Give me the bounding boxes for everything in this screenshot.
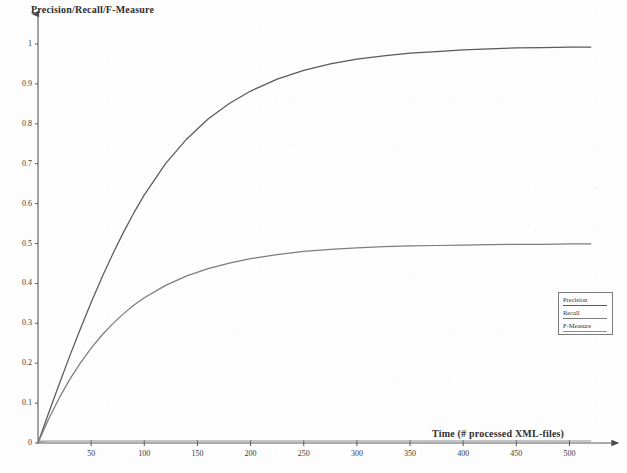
- y-tick-label: 0.4: [6, 278, 32, 287]
- y-tick-label: 0.6: [6, 199, 32, 208]
- legend-swatch-fmeasure: [563, 331, 607, 332]
- chart-series-group: [38, 47, 591, 443]
- x-tick-label: 350: [397, 449, 423, 458]
- x-tick-label: 150: [184, 449, 210, 458]
- legend-item-recall: Recall: [563, 309, 609, 319]
- chart-page: Precision/Recall/F-Measure Time (# proce…: [0, 0, 627, 473]
- y-axis-title: Precision/Recall/F-Measure: [31, 4, 154, 15]
- y-tick-label: 0.2: [6, 358, 32, 367]
- y-tick-label: 0.7: [6, 159, 32, 168]
- y-tick-label: 0.9: [6, 79, 32, 88]
- x-tick-label: 300: [344, 449, 370, 458]
- x-tick-label: 250: [291, 449, 317, 458]
- series-line-recall: [38, 244, 591, 443]
- y-tick-label: 0.8: [6, 119, 32, 128]
- y-tick-label: 0.3: [6, 318, 32, 327]
- chart-legend: Precision Recall F-Measure: [558, 292, 613, 335]
- series-line-precision: [38, 47, 591, 443]
- legend-label-recall: Recall: [563, 309, 609, 317]
- legend-item-fmeasure: F-Measure: [563, 322, 609, 332]
- y-tick-label: 1: [6, 39, 32, 48]
- chart-canvas: [0, 0, 627, 473]
- legend-swatch-recall: [563, 318, 607, 319]
- x-tick-label: 50: [78, 449, 104, 458]
- legend-label-fmeasure: F-Measure: [563, 322, 609, 330]
- legend-item-precision: Precision: [563, 296, 609, 306]
- x-tick-label: 500: [556, 449, 582, 458]
- x-tick-label: 200: [238, 449, 264, 458]
- y-tick-label: 0: [6, 438, 32, 447]
- x-tick-label: 450: [503, 449, 529, 458]
- y-tick-label: 0.5: [6, 239, 32, 248]
- y-tick-label: 0.1: [6, 398, 32, 407]
- legend-swatch-precision: [563, 305, 607, 306]
- legend-label-precision: Precision: [563, 296, 609, 304]
- x-tick-label: 400: [450, 449, 476, 458]
- x-axis-title: Time (# processed XML-files): [432, 428, 564, 439]
- x-tick-label: 100: [131, 449, 157, 458]
